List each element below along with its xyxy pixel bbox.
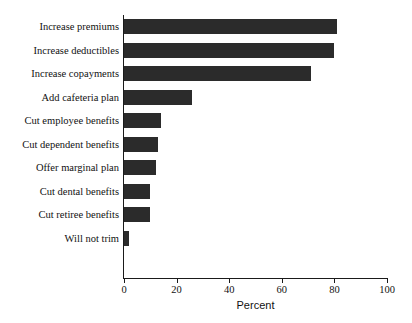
bar-row (124, 180, 387, 204)
x-tick-label: 60 (277, 284, 288, 295)
bar (124, 184, 150, 199)
x-tick-mark (124, 278, 125, 283)
bar-row (124, 109, 387, 133)
bar-row (124, 39, 387, 63)
x-tick-mark (177, 278, 178, 283)
bar-chart: Increase premiumsIncrease deductiblesInc… (0, 0, 412, 323)
category-label: Offer marginal plan (0, 156, 119, 180)
bar (124, 207, 150, 222)
bar-row (124, 15, 387, 39)
category-label: Will not trim (0, 227, 119, 251)
category-label: Cut dependent benefits (0, 133, 119, 157)
bar (124, 137, 158, 152)
x-tick-label: 100 (379, 284, 395, 295)
category-label: Cut retiree benefits (0, 203, 119, 227)
category-label: Cut dental benefits (0, 180, 119, 204)
bar-series (124, 15, 387, 278)
x-tick-label: 20 (171, 284, 182, 295)
x-tick-mark (229, 278, 230, 283)
x-axis-title: Percent (124, 299, 387, 311)
category-label: Increase deductibles (0, 39, 119, 63)
bar (124, 231, 129, 246)
bar-row (124, 203, 387, 227)
category-label: Increase premiums (0, 15, 119, 39)
bar (124, 66, 311, 81)
category-label: Increase copayments (0, 62, 119, 86)
category-axis-labels: Increase premiumsIncrease deductiblesInc… (0, 15, 119, 278)
x-tick-label: 0 (121, 284, 126, 295)
bar (124, 113, 161, 128)
bar-row (124, 62, 387, 86)
category-label: Cut employee benefits (0, 109, 119, 133)
bar-row (124, 133, 387, 157)
category-label: Add cafeteria plan (0, 86, 119, 110)
x-tick-mark (387, 278, 388, 283)
bar (124, 19, 337, 34)
x-axis-ticks: 020406080100 (124, 278, 387, 318)
bar-row (124, 86, 387, 110)
x-tick-mark (282, 278, 283, 283)
bar-row (124, 156, 387, 180)
bar (124, 43, 334, 58)
bar (124, 90, 192, 105)
x-tick-mark (334, 278, 335, 283)
x-tick-label: 80 (329, 284, 340, 295)
bar-row (124, 227, 387, 251)
bar (124, 160, 156, 175)
x-tick-label: 40 (224, 284, 235, 295)
